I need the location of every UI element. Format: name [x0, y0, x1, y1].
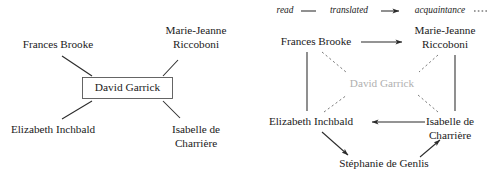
- edge-stephanie-de-genlis-to-isabelle-de-charriere: [420, 140, 440, 157]
- edge-isabelle-de-charriere-david-garrick-acquaintance: [418, 95, 438, 112]
- right-network-svg: read translated acquaintance: [248, 0, 497, 178]
- node-label-elizabeth-inchbald: Elizabeth Inchbald: [269, 115, 354, 127]
- node-label-marie-jeanne-riccoboni: Marie-Jeanne: [166, 24, 227, 36]
- node-label-isabelle-de-charriere: Isabelle de: [426, 115, 474, 127]
- node-label-david-garrick: David Garrick: [350, 77, 415, 89]
- node-label-marie-jeanne-riccoboni: Marie-Jeanne: [415, 24, 476, 36]
- node-label-david-garrick: David Garrick: [95, 81, 161, 93]
- edge-frances-brooke-david-garrick-acquaintance: [322, 52, 346, 72]
- panel-left-ego-network: Frances Brooke Marie-Jeanne Riccoboni Da…: [0, 0, 248, 178]
- relation-legend: read translated acquaintance: [277, 5, 489, 15]
- figure-canvas: Frances Brooke Marie-Jeanne Riccoboni Da…: [0, 0, 497, 178]
- edge-isabelle-de-charriere-david-garrick: [163, 101, 180, 118]
- node-label-marie-jeanne-riccoboni-line2: Riccoboni: [173, 38, 219, 50]
- node-label-frances-brooke: Frances Brooke: [23, 38, 94, 50]
- left-network-svg: Frances Brooke Marie-Jeanne Riccoboni Da…: [0, 0, 248, 178]
- node-label-isabelle-de-charriere-line2: Charrière: [429, 129, 471, 141]
- node-label-elizabeth-inchbald: Elizabeth Inchbald: [11, 123, 96, 135]
- node-label-isabelle-de-charriere-line2: Charrière: [175, 137, 217, 149]
- right-node-labels: Frances Brooke Marie-Jeanne Riccoboni Da…: [269, 24, 476, 169]
- edge-elizabeth-inchbald-david-garrick: [62, 101, 92, 119]
- edge-elizabeth-inchbald-david-garrick-acquaintance: [324, 95, 347, 112]
- legend-label-acquaintance: acquaintance: [415, 5, 466, 15]
- legend-label-read: read: [277, 5, 294, 15]
- node-label-stephanie-de-genlis: Stéphanie de Genlis: [339, 157, 428, 169]
- panel-right-network-without-ego: read translated acquaintance: [248, 0, 497, 178]
- edge-frances-brooke-david-garrick: [62, 56, 92, 76]
- legend-label-translated: translated: [330, 5, 368, 15]
- edge-marie-jeanne-riccoboni-david-garrick: [163, 60, 178, 76]
- node-label-frances-brooke: Frances Brooke: [281, 35, 352, 47]
- left-node-labels: Frances Brooke Marie-Jeanne Riccoboni Da…: [11, 24, 227, 149]
- node-label-isabelle-de-charriere: Isabelle de: [172, 123, 220, 135]
- edge-marie-jeanne-riccoboni-david-garrick-acquaintance: [419, 55, 438, 72]
- edge-elizabeth-inchbald-to-stephanie-de-genlis: [322, 132, 348, 155]
- node-label-marie-jeanne-riccoboni-line2: Riccoboni: [422, 38, 468, 50]
